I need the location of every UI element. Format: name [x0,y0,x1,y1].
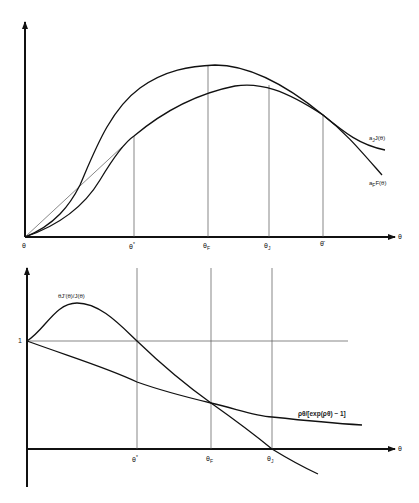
diagram-canvas [0,0,419,503]
curve-aj-j [25,65,385,237]
label-af-f: aFF(θ) [369,180,386,188]
top-tick-theta-j: θJ [264,242,270,251]
top-tick-theta-star: θ* [129,242,135,250]
top-tick-theta-bar: θ̄ [320,240,324,247]
bottom-tick-theta-j: θJ [267,455,273,464]
y-tick-one: 1 [18,337,22,344]
curve-af-f [25,85,382,237]
top-tick-theta-f: θF [203,242,210,251]
top-chart [25,22,395,237]
label-aj-j: aJJ(θ) [369,135,385,143]
top-x-axis-label: θ [398,233,402,240]
top-tangent-line [25,147,122,237]
bottom-tick-theta-star: θ* [132,455,138,463]
bottom-tick-theta-f: θF [206,455,213,464]
top-origin-label: θ [22,242,26,249]
bottom-x-axis-label: θ [398,445,402,452]
label-discount: ρθ/[exp(ρθ) − 1] [298,411,346,418]
label-elasticity: θJ'(θ)/J(θ) [58,293,85,299]
